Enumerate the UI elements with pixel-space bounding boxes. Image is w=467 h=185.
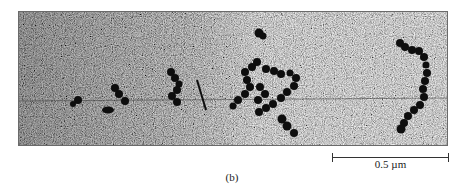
panel-label: (b) [216, 171, 248, 183]
scale-bar-label: 0.5 µm [332, 158, 449, 170]
micrograph-image [18, 11, 448, 146]
micrograph-graphic [19, 12, 448, 146]
